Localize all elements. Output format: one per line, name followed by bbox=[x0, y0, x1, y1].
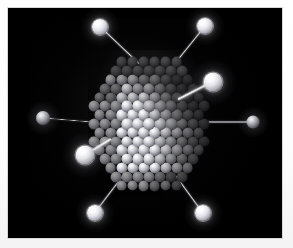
ligand-sphere bbox=[76, 146, 95, 165]
ligand-sphere bbox=[195, 205, 211, 221]
ligand-sphere bbox=[247, 116, 260, 129]
ligand-sphere bbox=[92, 19, 108, 35]
ligand-sphere bbox=[197, 18, 213, 34]
figure-container: A faceted polyhedral nanoparticle built … bbox=[0, 0, 293, 248]
ligand-lower-left bbox=[76, 146, 95, 165]
ligand-bottom-left bbox=[87, 205, 103, 221]
ligand-left bbox=[36, 111, 50, 125]
ligand-sphere bbox=[87, 205, 103, 221]
ligand-upper-right bbox=[204, 73, 223, 92]
nanoparticle-atom bbox=[143, 101, 155, 113]
nanoparticle-atom bbox=[143, 118, 155, 130]
nanoparticle-core bbox=[88, 50, 208, 196]
ligand-sphere bbox=[36, 111, 50, 125]
nanoparticle-atom bbox=[143, 136, 155, 148]
ligand-bottom-right bbox=[195, 205, 211, 221]
ligand-top-right bbox=[197, 18, 213, 34]
ligand-sphere bbox=[204, 73, 223, 92]
ligand-left-bond bbox=[43, 117, 90, 122]
ligand-right bbox=[247, 116, 260, 129]
image-plate bbox=[8, 8, 282, 238]
ligand-top-left bbox=[92, 19, 108, 35]
